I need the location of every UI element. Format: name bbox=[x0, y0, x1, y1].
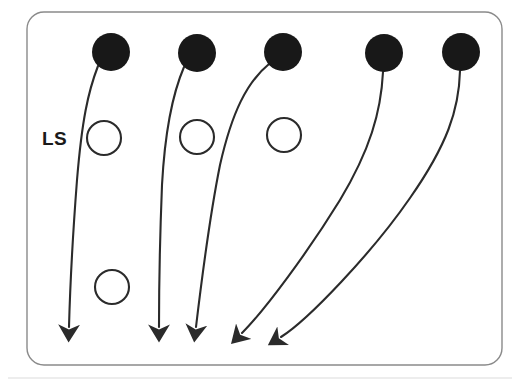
arrow-4 bbox=[242, 72, 383, 333]
arrow-5 bbox=[281, 71, 460, 337]
filled-node-1 bbox=[92, 33, 130, 71]
filled-node-3 bbox=[264, 33, 302, 71]
arrow-1 bbox=[69, 66, 98, 327]
open-node-1 bbox=[87, 121, 121, 155]
filled-node-2 bbox=[178, 34, 216, 72]
ls-label: LS bbox=[42, 128, 67, 149]
open-node-3 bbox=[267, 118, 301, 152]
open-node-group bbox=[87, 118, 301, 304]
open-node-2 bbox=[180, 120, 214, 154]
arrow-3 bbox=[196, 64, 269, 327]
filled-node-5 bbox=[442, 33, 480, 71]
filled-node-group bbox=[92, 33, 480, 72]
diagram-canvas: LS bbox=[0, 0, 520, 385]
figure-root: LS bbox=[0, 0, 520, 385]
open-node-4 bbox=[95, 270, 129, 304]
arrow-2 bbox=[159, 67, 184, 327]
arrow-group bbox=[69, 64, 460, 337]
filled-node-4 bbox=[365, 34, 403, 72]
